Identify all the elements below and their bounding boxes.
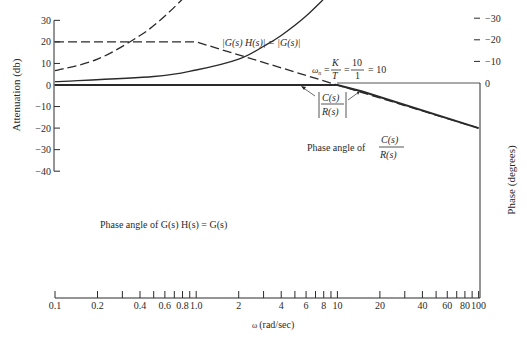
x-tick-label: 1.0 (190, 300, 203, 311)
bode-plot: 3020100−10−20−30−40 0−10−20−30−40−50−60−… (0, 0, 527, 345)
y-left-tick-label: 30 (41, 15, 51, 26)
y-right-tick-label: −40 (485, 0, 501, 2)
svg-text:10: 10 (352, 57, 362, 68)
y-left-tick-label: −20 (35, 123, 51, 134)
x-tick-label: 0.2 (91, 300, 104, 311)
y-right-tick-label: −10 (485, 56, 501, 67)
y-left-tick-label: −10 (35, 101, 51, 112)
x-tick-label: 0.4 (134, 300, 147, 311)
left-axis: 3020100−10−20−30−40 (35, 15, 60, 177)
series-layer (55, 0, 479, 128)
y-left-tick-label: 10 (41, 58, 51, 69)
x-tick-label: 2 (236, 300, 241, 311)
x-tick-label: 8 (321, 300, 326, 311)
series-c-s-r-s (55, 85, 479, 128)
svg-text:T: T (332, 70, 339, 81)
y-left-tick-label: 20 (41, 36, 51, 47)
annotation-phase-open-loop: Phase angle of G(s) H(s) = G(s) (100, 219, 227, 231)
svg-text:= 10: = 10 (368, 64, 386, 75)
y-right-tick-label: −30 (485, 13, 501, 24)
x-tick-label: 80 (460, 300, 470, 311)
y-right-tick-label: 0 (485, 78, 490, 89)
y-axis-label-right: Phase (degrees) (505, 145, 518, 215)
annotation-natural-frequency: ωn = K T = 10 1 = 10 (312, 57, 386, 81)
svg-text:ωn: ωn (312, 65, 321, 76)
pointer-arrow-right (348, 92, 359, 100)
annotation-open-loop-magnitude: |G(s) H(s)| = |G(s)| (222, 37, 301, 49)
omega-symbol: ω (252, 321, 257, 330)
x-axis: 0.10.20.40.60.81.024681020406080100 (49, 291, 486, 311)
svg-text:1: 1 (355, 70, 360, 81)
svg-text:R(s): R(s) (379, 149, 397, 161)
x-tick-label: 20 (375, 300, 385, 311)
svg-text:=: = (344, 64, 350, 75)
series-phase-angle-of-g-s-h-s-g-s (55, 0, 479, 71)
x-tick-label: 100 (471, 300, 486, 311)
x-tick-label: 0.1 (49, 300, 62, 311)
x-tick-label: 6 (304, 300, 309, 311)
svg-text:K: K (331, 57, 340, 68)
y-left-tick-label: −30 (35, 144, 51, 155)
x-tick-label: 40 (417, 300, 427, 311)
svg-text:=: = (324, 64, 330, 75)
x-tick-label: 10 (332, 300, 342, 311)
y-left-tick-label: −40 (35, 166, 51, 177)
svg-text:C(s): C(s) (322, 92, 340, 104)
y-left-tick-label: 0 (46, 80, 51, 91)
x-tick-label: 0.8 (176, 300, 189, 311)
annotation-phase-closed-loop: Phase angle of C(s) R(s) (307, 134, 404, 161)
x-axis-units: (rad/sec) (259, 319, 294, 331)
x-tick-label: 0.6 (159, 300, 172, 311)
svg-text:Phase angle of: Phase angle of (307, 142, 366, 153)
x-tick-label: 4 (279, 300, 284, 311)
svg-text:R(s): R(s) (321, 106, 339, 118)
x-tick-label: 60 (442, 300, 452, 311)
svg-text:C(s): C(s) (381, 134, 399, 146)
y-right-tick-label: −20 (485, 34, 501, 45)
annotation-closed-loop-magnitude: C(s) R(s) (301, 86, 360, 118)
x-axis-label: ω(rad/sec) (252, 319, 294, 331)
y-axis-label-left: Attenuation (db) (10, 58, 23, 131)
